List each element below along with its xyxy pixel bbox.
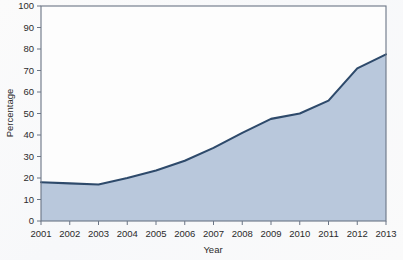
x-axis-ticks: 2001200220032004200520062007200820092010… [30, 221, 396, 239]
y-tick-label: 70 [23, 65, 34, 76]
x-tick-label: 2009 [260, 228, 281, 239]
y-tick-label: 80 [23, 43, 34, 54]
y-tick-label: 100 [18, 0, 34, 11]
x-tick-label: 2001 [30, 228, 51, 239]
chart-figure: 0102030405060708090100 20012002200320042… [0, 0, 403, 260]
x-tick-label: 2005 [145, 228, 166, 239]
x-tick-label: 2011 [318, 228, 338, 239]
y-tick-label: 20 [23, 172, 34, 183]
area-chart: 0102030405060708090100 20012002200320042… [0, 0, 403, 260]
y-tick-label: 30 [23, 151, 34, 162]
x-tick-label: 2002 [59, 228, 80, 239]
x-tick-label: 2010 [289, 228, 310, 239]
x-tick-label: 2012 [347, 228, 368, 239]
x-axis-title: Year [203, 244, 222, 255]
x-tick-label: 2004 [117, 228, 138, 239]
x-tick-label: 2008 [232, 228, 253, 239]
y-tick-label: 50 [23, 108, 34, 119]
y-axis-title: Percentage [4, 89, 15, 138]
x-tick-label: 2006 [174, 228, 195, 239]
x-tick-label: 2013 [375, 228, 396, 239]
x-tick-label: 2007 [203, 228, 224, 239]
y-tick-label: 10 [23, 194, 34, 205]
y-tick-label: 90 [23, 22, 34, 33]
y-tick-label: 0 [29, 215, 34, 226]
y-tick-label: 40 [23, 129, 34, 140]
y-tick-label: 60 [23, 86, 34, 97]
y-axis-ticks: 0102030405060708090100 [18, 0, 41, 226]
x-tick-label: 2003 [88, 228, 109, 239]
